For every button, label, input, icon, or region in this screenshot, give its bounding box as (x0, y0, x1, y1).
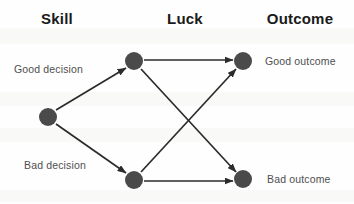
luck-node-top[interactable] (125, 52, 143, 70)
outcome-label-good: Good outcome (265, 55, 336, 67)
skill-node[interactable] (39, 108, 57, 126)
diagram-canvas: Skill Luck Outcome Good decision Bad dec… (0, 0, 354, 204)
outcome-label-bad: Bad outcome (267, 173, 331, 185)
edge-label-bad-decision: Bad decision (24, 159, 86, 171)
outcome-node-good[interactable] (234, 52, 252, 70)
edge-label-good-decision: Good decision (14, 63, 83, 75)
luck-node-bottom[interactable] (125, 171, 143, 189)
outcome-node-bad[interactable] (234, 170, 252, 188)
